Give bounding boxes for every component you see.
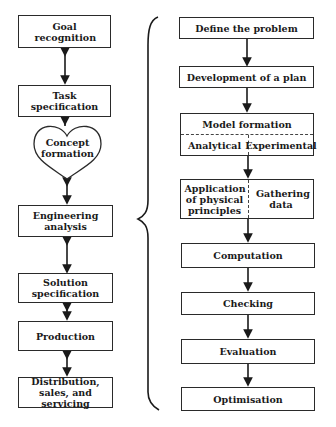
engineering-analysis-box: Engineering analysis <box>18 205 113 237</box>
solution-label: Solution specification <box>26 277 106 299</box>
solution-specification-box: Solution specification <box>18 273 113 303</box>
development-plan-box: Development of a plan <box>179 66 314 88</box>
define-problem-box: Define the problem <box>179 17 314 39</box>
optimisation-label: Optimisation <box>213 394 282 405</box>
plan-label: Development of a plan <box>187 72 307 83</box>
analytical-cell: Analytical <box>181 135 249 155</box>
goal-recognition-box: Goal recognition <box>18 15 111 48</box>
model-title: Model formation <box>202 119 291 130</box>
engineering-label: Engineering analysis <box>26 210 106 232</box>
computation-box: Computation <box>181 243 315 268</box>
production-box: Production <box>18 321 113 351</box>
evaluation-label: Evaluation <box>220 346 277 357</box>
experimental-label: Experimental <box>245 140 316 151</box>
checking-box: Checking <box>181 292 315 315</box>
define-label: Define the problem <box>195 23 297 34</box>
application-label: Application of physical principles <box>185 183 245 216</box>
analytical-label: Analytical <box>188 140 241 151</box>
gathering-label: Gathering data <box>256 188 306 210</box>
model-formation-box: Model formation Analytical Experimental <box>180 113 314 156</box>
computation-label: Computation <box>213 250 282 261</box>
methods-box: Application of physical principles Gathe… <box>180 179 314 219</box>
experimental-cell: Experimental <box>249 135 313 155</box>
distribution-box: Distribution, sales, and servicing <box>18 377 113 408</box>
task-label: Task specification <box>25 90 105 112</box>
distribution-label: Distribution, sales, and servicing <box>20 376 112 409</box>
evaluation-box: Evaluation <box>181 339 315 364</box>
brace-icon <box>138 17 159 410</box>
gathering-cell: Gathering data <box>249 180 313 218</box>
production-label: Production <box>36 331 95 342</box>
concept-formation-label: Concept formation <box>40 137 95 159</box>
goal-label: Goal recognition <box>35 21 95 43</box>
checking-label: Checking <box>223 298 273 309</box>
application-cell: Application of physical principles <box>181 180 249 218</box>
task-specification-box: Task specification <box>18 85 111 117</box>
optimisation-box: Optimisation <box>181 387 315 411</box>
model-title-row: Model formation <box>181 114 313 135</box>
